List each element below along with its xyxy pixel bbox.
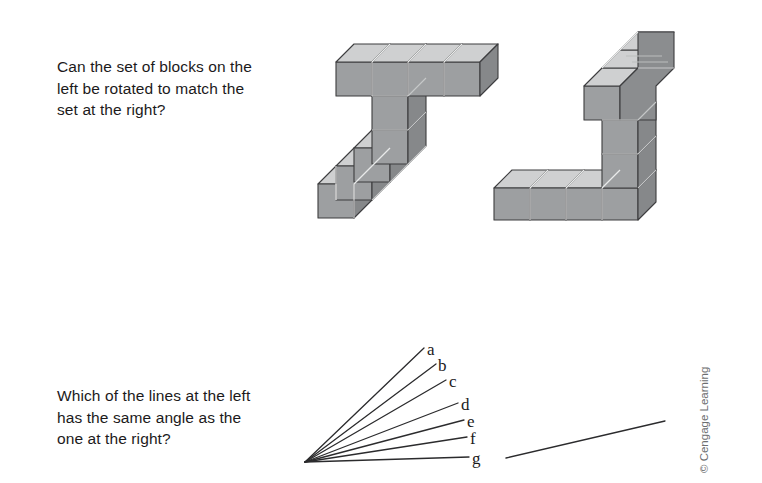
blocks-question-prompt: Can the set of blocks on the left be rot… [57,56,307,121]
fan-line-c [305,380,446,462]
fan-line-d [305,403,458,462]
fan-label-g: g [472,450,481,467]
fan-label-f: f [470,430,476,447]
fan-line-b [305,364,436,462]
right-block-assembly [488,22,688,227]
reference-line [498,412,678,467]
fan-line-a [305,348,424,462]
fan-label-d: d [461,396,470,413]
worksheet-page: Can the set of blocks on the left be rot… [0,0,762,483]
lines-question-prompt: Which of the lines at the left has the s… [57,385,312,450]
fan-label-c: c [449,373,457,390]
left-block-assembly [310,22,500,227]
fan-label-a: a [427,341,435,358]
fan-label-b: b [438,357,447,374]
copyright-notice: © Cengage Learning [697,355,711,473]
line-fan [296,336,481,471]
fan-label-e: e [467,413,475,430]
